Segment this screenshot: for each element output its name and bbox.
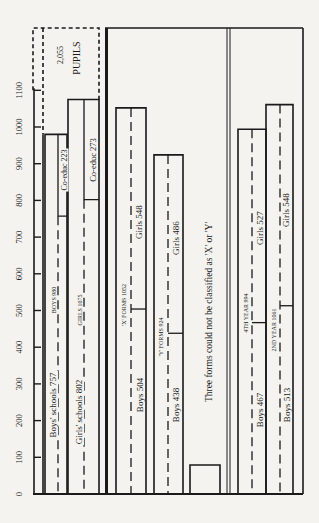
label-boys-coeduc: Co-educ 223 [60, 149, 69, 190]
label-x-forms: 'X' FORMS 1052 [121, 284, 127, 326]
label-y-girls: Girls 486 [171, 221, 181, 255]
label-x-boys: Boys 504 [135, 377, 145, 412]
label-year4: 4TH YEAR 994 [243, 293, 249, 332]
y-tick-label: 300 [14, 378, 24, 391]
divider-1 [105, 28, 108, 494]
y-tick-label: 1100 [14, 82, 24, 99]
label-y2-boys: Boys 513 [282, 387, 292, 422]
label-year2: 2ND YEAR 1061 [271, 309, 277, 352]
y-tick-label: 500 [14, 304, 24, 317]
bar-unclassified [190, 465, 220, 494]
y-tick-label: 0 [14, 492, 24, 496]
label-boys-total: BOYS 980 [51, 287, 57, 314]
y-tick-label: 900 [14, 157, 24, 170]
label-pupils-total: 2,055 [56, 46, 65, 64]
label-girls-schools: Girls' schools 802 [74, 380, 84, 445]
label-girls-coeduc: Co-educ 273 [88, 138, 98, 182]
y-tick-label: 800 [14, 194, 24, 207]
label-boys-schools: Boys' schools 757 [48, 372, 58, 438]
pupil-distribution-chart: 010020030040050060070080090010001100 2,0… [0, 0, 319, 523]
label-y4-girls: Girls 527 [255, 211, 265, 245]
label-y-boys: Boys 438 [171, 387, 181, 422]
y-tick-label: 600 [14, 267, 24, 280]
y-tick-label: 1000 [14, 119, 24, 136]
label-y4-boys: Boys 467 [255, 392, 265, 427]
y-tick-label: 100 [14, 451, 24, 464]
label-y-forms: 'Y' FORMS 924 [158, 318, 164, 357]
label-unclassified: Three forms could not be classified as '… [204, 222, 214, 402]
label-pupils-word: PUPILS [71, 41, 82, 74]
y-tick-label: 200 [14, 414, 24, 427]
y-axis-ticks: 010020030040050060070080090010001100 [14, 82, 41, 496]
y-tick-label: 400 [14, 341, 24, 354]
label-y2-girls: Girls 548 [281, 193, 291, 227]
label-x-girls: Girls 548 [134, 205, 144, 239]
y-tick-label: 700 [14, 231, 24, 244]
label-girls-total: GIRLS 1075 [77, 295, 83, 326]
